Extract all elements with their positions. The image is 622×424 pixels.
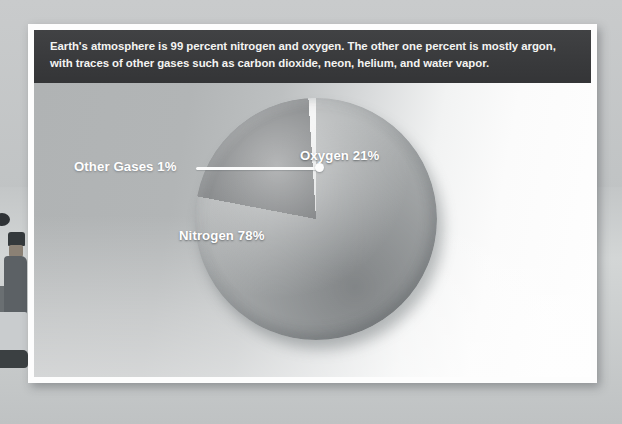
pie-disc <box>195 98 437 340</box>
chart-panel-inner: Earth's atmosphere is 99 percent nitroge… <box>34 30 591 377</box>
chart-panel: Earth's atmosphere is 99 percent nitroge… <box>28 24 597 383</box>
pie-label-oxygen: Oxygen 21% <box>300 148 379 163</box>
silhouette-torso <box>4 256 27 314</box>
caption-bar: Earth's atmosphere is 99 percent nitroge… <box>34 30 591 83</box>
caption-text: Earth's atmosphere is 99 percent nitroge… <box>50 38 575 72</box>
pie-wedges <box>195 98 437 340</box>
pie-label-other-gases: Other Gases 1% <box>74 159 177 174</box>
pie-label-nitrogen: Nitrogen 78% <box>179 228 264 243</box>
callout-leader-line <box>196 167 319 170</box>
chart-body: Oxygen 21% Nitrogen 78% Other Gases 1% <box>34 83 591 377</box>
silhouette-legs <box>0 312 27 354</box>
silhouette-head <box>8 232 25 246</box>
silhouette-boots <box>0 350 28 368</box>
pie-chart <box>195 98 443 346</box>
callout-leader-dot <box>315 163 324 172</box>
screenshot-stage: Earth's atmosphere is 99 percent nitroge… <box>0 0 622 424</box>
